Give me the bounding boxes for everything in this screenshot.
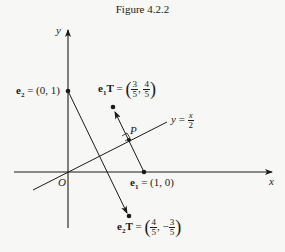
e1T-eq: =: [114, 82, 126, 94]
e1-label: e1 = (1, 0): [130, 176, 174, 191]
point-e2: [66, 89, 71, 94]
arrow-e2-to-e2T: [68, 91, 127, 213]
point-e1: [142, 170, 147, 175]
y-axis-label: y: [56, 24, 61, 36]
origin-label: O: [58, 176, 66, 188]
point-p-label: P: [130, 124, 137, 136]
diagram-canvas: [0, 0, 285, 252]
e2-eq: = (0, 1): [24, 84, 60, 96]
point-e1T: [111, 105, 116, 110]
e2T-sep: ,: [157, 220, 160, 232]
point-P: [127, 138, 131, 142]
e1-eq: = (1, 0): [138, 176, 174, 188]
e1T-label: e1T = (35, 45): [98, 79, 156, 100]
line-label-eq: =: [179, 113, 185, 125]
line-label-lhs: y: [171, 113, 176, 125]
arrow-e1-to-e1T: [115, 112, 144, 172]
e2-label: e2 = (0, 1): [16, 84, 60, 99]
e1T-T: T: [106, 82, 113, 94]
e2T-T: T: [125, 220, 132, 232]
e2T-eq: =: [133, 220, 145, 232]
line-label-frac: x2: [188, 111, 195, 130]
line-label: y = x2: [171, 111, 194, 130]
line-label-den: 2: [188, 121, 195, 130]
e1T-sep: ,: [138, 82, 141, 94]
x-axis-label: x: [269, 175, 274, 187]
e2T-label: e2T = (45, −35): [117, 217, 181, 238]
